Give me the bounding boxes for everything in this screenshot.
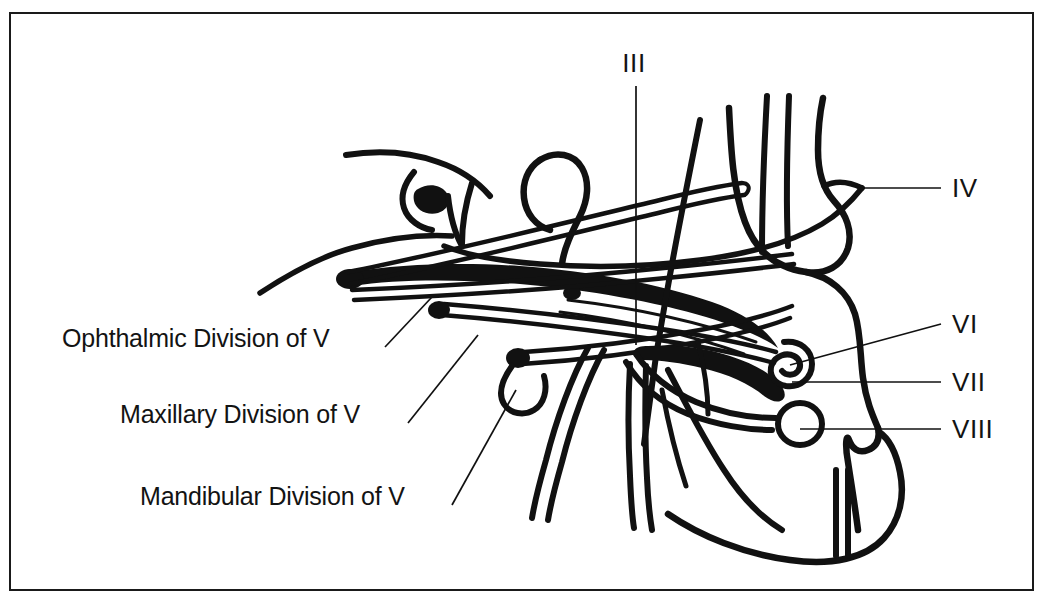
label-maxillary-division: Maxillary Division of V	[120, 400, 360, 428]
leader-maxillary	[408, 335, 478, 423]
trochlear-nerve-iv	[444, 182, 862, 266]
leader-vi	[790, 324, 941, 365]
label-ophthalmic-division: Ophthalmic Division of V	[62, 324, 330, 352]
leader-mandibular	[452, 390, 516, 505]
dorsum-sellae	[524, 154, 587, 264]
label-mandibular-division: Mandibular Division of V	[140, 482, 405, 510]
leader-ophthalmic	[385, 297, 432, 347]
label-nerve-vi: VI	[952, 309, 978, 339]
label-nerve-viii: VIII	[952, 414, 993, 444]
label-nerve-iii: III	[622, 48, 645, 78]
basilar-trunks	[532, 348, 686, 530]
cerebral-peduncle-lines	[762, 96, 789, 252]
vestibulocochlear-nerve-viii	[778, 403, 822, 445]
anatomy-drawing: Ophthalmic Division of V Maxillary Divis…	[0, 0, 1043, 602]
anatomy-figure: Ophthalmic Division of V Maxillary Divis…	[0, 0, 1043, 602]
label-nerve-iv: IV	[952, 173, 978, 203]
label-nerve-vii: VII	[952, 367, 986, 397]
